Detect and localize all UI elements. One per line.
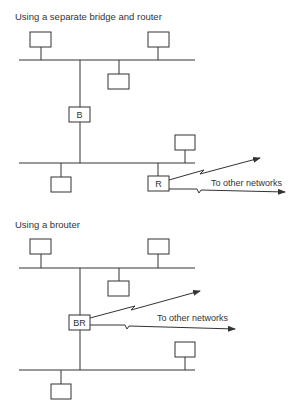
wan-label: To other networks — [157, 313, 229, 323]
wan-link-upper — [169, 158, 260, 180]
bridge-device: B — [69, 107, 90, 122]
brouter-device: BR — [69, 315, 90, 330]
lan-segment-4 — [19, 342, 195, 399]
router-label: R — [155, 179, 162, 189]
station-node — [30, 32, 51, 47]
section-brouter: Using a brouter BR To other networks — [15, 219, 235, 399]
brouter-label: BR — [73, 318, 86, 328]
station-node — [148, 239, 169, 254]
wan-link-lower — [90, 325, 235, 329]
station-node — [148, 32, 169, 47]
wan-label: To other networks — [211, 178, 283, 188]
section2-title: Using a brouter — [15, 219, 80, 230]
station-node — [30, 239, 51, 254]
station-node — [51, 384, 71, 399]
section-separate-bridge-router: Using a separate bridge and router B — [15, 11, 285, 193]
station-node — [108, 281, 129, 296]
station-node — [175, 342, 195, 357]
section1-title: Using a separate bridge and router — [15, 11, 162, 22]
bridge-label: B — [76, 110, 82, 120]
wan-link-lower — [169, 189, 285, 193]
network-diagram: Using a separate bridge and router B — [0, 0, 300, 408]
station-node — [51, 177, 71, 192]
router-device: R — [148, 176, 169, 191]
station-node — [175, 135, 195, 150]
lan-segment-3 — [19, 239, 195, 296]
lan-segment-1 — [19, 32, 195, 89]
station-node — [108, 74, 129, 89]
